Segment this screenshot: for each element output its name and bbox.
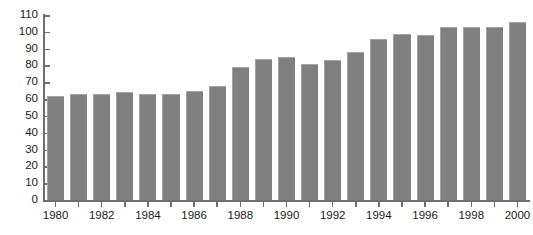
bar [440, 27, 457, 200]
y-axis-labels: 1101009080706050403020100 [0, 0, 38, 235]
y-axis-tick-label: 20 [4, 160, 38, 172]
x-axis-tick [355, 201, 357, 207]
bar [116, 92, 133, 200]
bar [324, 60, 341, 200]
x-axis-tick [494, 201, 496, 207]
x-axis-tick-label: 2000 [497, 210, 533, 222]
bar [370, 39, 387, 200]
x-axis-tick-label: 1990 [267, 210, 307, 222]
y-axis-tick-label: 10 [4, 177, 38, 189]
x-axis-tick [55, 201, 57, 207]
x-axis-tick-label: 1992 [313, 210, 353, 222]
bar [347, 52, 364, 200]
bar [93, 94, 110, 200]
bar [139, 94, 156, 200]
x-axis-tick [309, 201, 311, 207]
x-axis-tick [263, 201, 265, 207]
bar [393, 34, 410, 201]
x-axis-tick [447, 201, 449, 207]
bar [162, 94, 179, 200]
x-axis-tick [147, 201, 149, 207]
x-axis-tick [424, 201, 426, 207]
x-axis-tick [286, 201, 288, 207]
bar [47, 96, 64, 200]
x-axis-tick [240, 201, 242, 207]
bar [255, 59, 272, 200]
y-axis-tick-label: 80 [4, 59, 38, 71]
bar [186, 91, 203, 200]
bar [509, 22, 526, 200]
x-axis-tick [124, 201, 126, 207]
bar [209, 86, 226, 200]
bar [278, 57, 295, 200]
x-axis-tick [170, 201, 172, 207]
bar-series [44, 0, 530, 201]
bar [301, 64, 318, 200]
x-axis-tick-label: 1996 [405, 210, 445, 222]
bar [486, 27, 503, 200]
bar [70, 94, 87, 200]
x-axis-tick [332, 201, 334, 207]
x-axis-tick [517, 201, 519, 207]
x-axis-tick-label: 1984 [128, 210, 168, 222]
bar [463, 27, 480, 200]
x-axis-tick [216, 201, 218, 207]
x-axis-tick [193, 201, 195, 207]
bar [417, 35, 434, 200]
y-axis-tick-label: 90 [4, 43, 38, 55]
bar [232, 67, 249, 200]
x-axis-tick [378, 201, 380, 207]
y-axis-tick-label: 0 [4, 194, 38, 206]
x-axis-tick [401, 201, 403, 207]
x-axis-tick [78, 201, 80, 207]
y-axis-tick-label: 40 [4, 127, 38, 139]
x-axis-tick-label: 1998 [451, 210, 491, 222]
y-axis-tick-label: 100 [4, 26, 38, 38]
x-axis-tick-label: 1982 [82, 210, 122, 222]
y-axis-tick-label: 60 [4, 93, 38, 105]
x-axis-tick [101, 201, 103, 207]
x-axis-tick-label: 1994 [359, 210, 399, 222]
y-axis-tick-label: 50 [4, 110, 38, 122]
y-axis-tick-label: 110 [4, 9, 38, 21]
y-axis-tick-label: 30 [4, 144, 38, 156]
x-axis-tick-label: 1988 [220, 210, 260, 222]
y-axis-tick-label: 70 [4, 76, 38, 88]
x-axis-tick-label: 1986 [174, 210, 214, 222]
x-axis-tick-label: 1980 [36, 210, 76, 222]
bar-chart: 1101009080706050403020100 19801982198419… [0, 0, 533, 235]
x-axis-tick [471, 201, 473, 207]
